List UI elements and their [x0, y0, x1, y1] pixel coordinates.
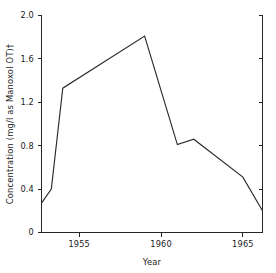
- y-tick-label-0: 0: [29, 227, 34, 237]
- y-tick-label-0.8: 0.8: [20, 141, 34, 151]
- y-axis-ticks-left: [38, 16, 42, 233]
- x-tick-label-1955: 1955: [68, 239, 90, 249]
- y-tick-label-1.6: 1.6: [20, 54, 34, 64]
- x-axis-title: Year: [142, 257, 162, 267]
- y-tick-label-2.0: 2.0: [20, 10, 34, 20]
- data-series-line: [42, 36, 263, 211]
- y-axis-ticks-right: [259, 16, 263, 190]
- x-axis-ticks: [79, 233, 243, 237]
- y-tick-label-0.4: 0.4: [20, 184, 34, 194]
- y-tick-label-1.2: 1.2: [20, 97, 34, 107]
- y-axis-title: Concentration (mg/l as Manoxol OT)†: [5, 44, 15, 204]
- x-tick-label-1965: 1965: [232, 239, 254, 249]
- x-tick-label-1960: 1960: [150, 239, 172, 249]
- line-chart: 2.0 1.6 1.2 0.8 0.4 0 1955 1960 1965 Yea…: [0, 0, 276, 273]
- chart-container: 2.0 1.6 1.2 0.8 0.4 0 1955 1960 1965 Yea…: [0, 0, 276, 273]
